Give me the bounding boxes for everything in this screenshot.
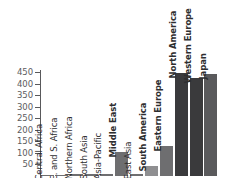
category-label: E. and S. Africa — [49, 117, 58, 178]
y-axis-tick — [35, 72, 40, 73]
plot-area: 45040035030025020015010050 Central Afric… — [0, 0, 241, 178]
bar — [175, 73, 188, 175]
y-axis-tick-label: 450 — [17, 68, 33, 77]
category-label: South America — [139, 103, 148, 172]
category-label: South Asia — [79, 136, 88, 178]
y-axis-tick-label: 150 — [17, 137, 33, 146]
category-label: Western Europe — [183, 8, 192, 83]
category-label: Japan — [198, 54, 207, 80]
bar — [190, 78, 203, 176]
y-axis-tick — [35, 118, 40, 119]
bar-chart-figure: 45040035030025020015010050 Central Afric… — [0, 0, 241, 178]
y-axis-tick-label: 400 — [17, 79, 33, 88]
y-axis-tick-label: 100 — [17, 148, 33, 157]
category-label: North America — [168, 11, 177, 79]
y-axis-tick — [35, 95, 40, 96]
bar — [204, 74, 217, 175]
category-label: East Asia — [124, 141, 133, 178]
y-axis-tick-label: 250 — [17, 114, 33, 123]
category-label: Asia-Pacific — [94, 132, 103, 178]
y-axis-tick-label: 350 — [17, 91, 33, 100]
category-label: Eastern Europe — [154, 80, 163, 152]
y-axis-tick — [35, 107, 40, 108]
y-axis-tick-label: 300 — [17, 102, 33, 111]
y-axis-tick-label: 50 — [22, 160, 33, 169]
category-label: Middle East — [109, 103, 118, 158]
y-axis-tick — [35, 84, 40, 85]
y-axis-tick-label: 200 — [17, 125, 33, 134]
category-label: Northern Africa — [64, 116, 73, 178]
category-label: Central Africa — [34, 124, 43, 178]
